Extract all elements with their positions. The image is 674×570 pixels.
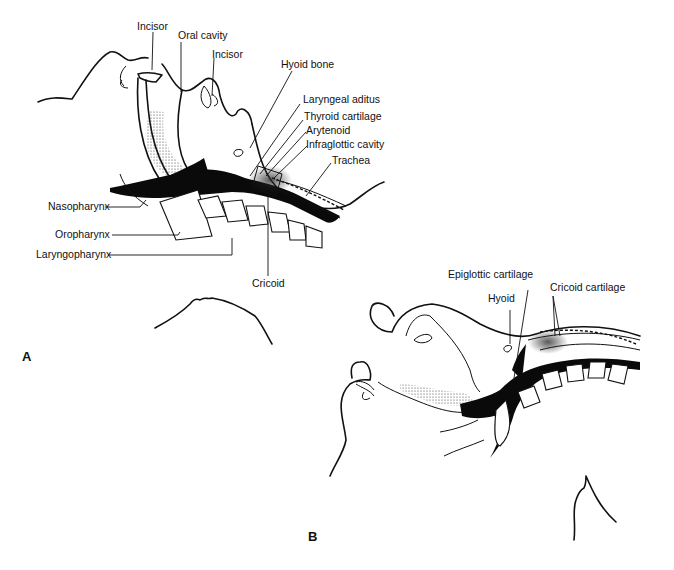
label-arytenoid: Arytenoid <box>306 124 351 136</box>
label-epiglottic-cartilage: Epiglottic cartilage <box>448 268 533 280</box>
panel-label-a: A <box>22 349 32 364</box>
label-oropharynx: Oropharynx <box>55 228 111 240</box>
label-hyoid: Hyoid <box>488 292 515 304</box>
label-laryngeal-aditus: Laryngeal aditus <box>303 93 380 105</box>
panel-b-drawing <box>330 303 640 540</box>
label-cricoid-cartilage: Cricoid cartilage <box>550 281 625 293</box>
anatomy-figure: Incisor Oral cavity Incisor Hyoid bone L… <box>0 0 674 570</box>
label-thyroid-cartilage: Thyroid cartilage <box>304 110 382 122</box>
label-laryngopharynx: Laryngopharynx <box>36 248 112 260</box>
label-nasopharynx: Nasopharynx <box>48 200 111 212</box>
label-oral-cavity: Oral cavity <box>178 29 228 41</box>
label-cricoid: Cricoid <box>252 277 285 289</box>
panel-label-b: B <box>308 529 317 544</box>
label-incisor-lower: Incisor <box>212 48 243 60</box>
label-hyoid-bone: Hyoid bone <box>281 58 334 70</box>
label-trachea: Trachea <box>332 154 370 166</box>
label-infraglottic-cavity: Infraglottic cavity <box>306 138 385 150</box>
label-incisor-upper: Incisor <box>137 20 168 32</box>
